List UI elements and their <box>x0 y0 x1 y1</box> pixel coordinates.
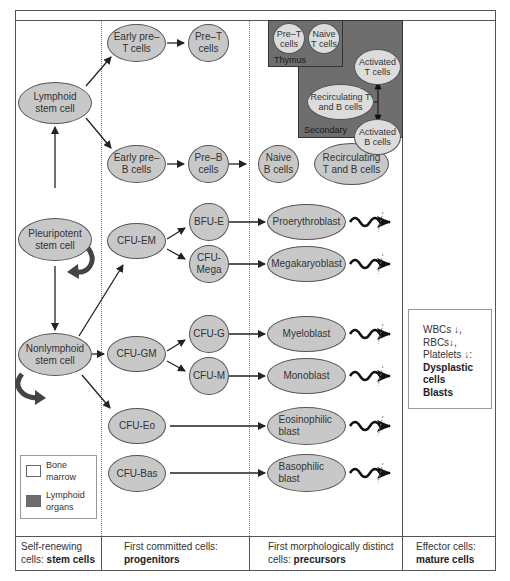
lymphoid-stem-cell: Lymphoid stem cell <box>18 82 92 124</box>
bfu-e: BFU-E <box>189 203 229 241</box>
cfu-m: CFU-M <box>189 357 229 395</box>
self-renew-arrow-nonlymphoid <box>18 374 38 398</box>
myeloblast: Myeloblast <box>267 316 346 352</box>
cfu-eo: CFU-Eo <box>108 408 166 444</box>
pre-t-cells: Pre–T cells <box>188 24 229 62</box>
pre-b-cells: Pre–B cells <box>188 145 229 183</box>
secondary-recirculating-cells: Recirculating T and B cells <box>307 84 374 120</box>
activated-t-cells: Activated T cells <box>354 49 401 85</box>
megakaryoblast: Megakaryoblast <box>267 246 346 282</box>
cfu-g: CFU-G <box>189 315 229 353</box>
activated-b-cells: Activated B cells <box>354 119 401 155</box>
early-pre-b-cells: Early pre– B cells <box>107 145 166 183</box>
monoblast: Monoblast <box>267 358 346 394</box>
nonlymphoid-stem-cell: Nonlymphoid stem cell <box>18 333 92 376</box>
cfu-gm: CFU-GM <box>107 336 166 372</box>
thymus-naive-t-cells: Naive T cells <box>308 23 340 54</box>
eosinophilic-blast: Eosinophilic blast <box>267 407 346 445</box>
proerythroblast: Proerythroblast <box>267 204 346 240</box>
pleuripotent-stem-cell: Pleuripotent stem cell <box>18 218 92 261</box>
thymus-pre-t-cells: Pre–T cells <box>273 23 305 54</box>
cfu-em: CFU-EM <box>107 223 166 259</box>
cfu-mega: CFU- Mega <box>189 245 229 283</box>
naive-b-cells: Naive B cells <box>258 145 299 183</box>
cfu-bas: CFU-Bas <box>108 455 166 492</box>
early-pre-t-cells: Early pre– T cells <box>107 24 166 62</box>
basophilic-blast: Basophilic blast <box>267 454 346 492</box>
